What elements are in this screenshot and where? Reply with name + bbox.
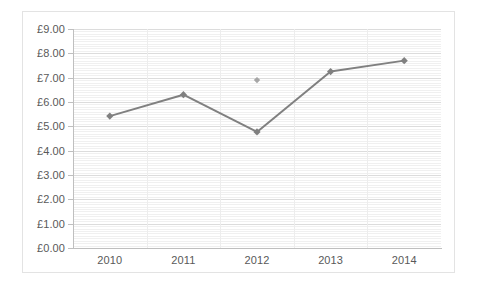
y-axis-tick-label: £3.00	[7, 170, 65, 181]
y-axis-tick-mark	[68, 29, 73, 30]
x-axis-tick-label: 2011	[146, 255, 220, 266]
orphan-data-point	[254, 77, 260, 83]
y-axis-tick-mark	[68, 224, 73, 225]
series-data-point	[401, 57, 408, 64]
x-axis-tick-label: 2012	[220, 255, 294, 266]
y-axis-line	[73, 29, 74, 249]
y-axis-tick-label: £5.00	[7, 121, 65, 132]
y-axis-tick-label: £7.00	[7, 73, 65, 84]
y-axis-tick-mark	[68, 248, 73, 249]
y-axis-tick-mark	[68, 175, 73, 176]
plot-area	[73, 29, 441, 248]
y-axis-tick-mark	[68, 78, 73, 79]
y-axis-tick-mark	[68, 199, 73, 200]
x-axis-tick-label: 2014	[367, 255, 441, 266]
y-axis-tick-label: £2.00	[7, 194, 65, 205]
y-axis-tick-mark	[68, 53, 73, 54]
y-axis-tick-mark	[68, 151, 73, 152]
y-axis-tick-label: £9.00	[7, 24, 65, 35]
y-axis-tick-label: £6.00	[7, 97, 65, 108]
x-axis-line	[73, 248, 442, 249]
y-axis-tick-mark	[68, 126, 73, 127]
series-line	[110, 61, 404, 132]
y-axis-tick-mark	[68, 102, 73, 103]
y-axis-tick-label: £4.00	[7, 146, 65, 157]
series-layer	[73, 29, 441, 248]
y-axis-tick-label: £0.00	[7, 243, 65, 254]
x-axis-tick-label: 2010	[73, 255, 147, 266]
series-data-point	[180, 91, 187, 98]
y-axis-tick-label: £1.00	[7, 219, 65, 230]
series-data-point	[106, 113, 113, 120]
y-axis-tick-label: £8.00	[7, 48, 65, 59]
chart-figure: £9.00£8.00£7.00£6.00£5.00£4.00£3.00£2.00…	[22, 11, 455, 273]
x-axis-tick-label: 2013	[294, 255, 368, 266]
